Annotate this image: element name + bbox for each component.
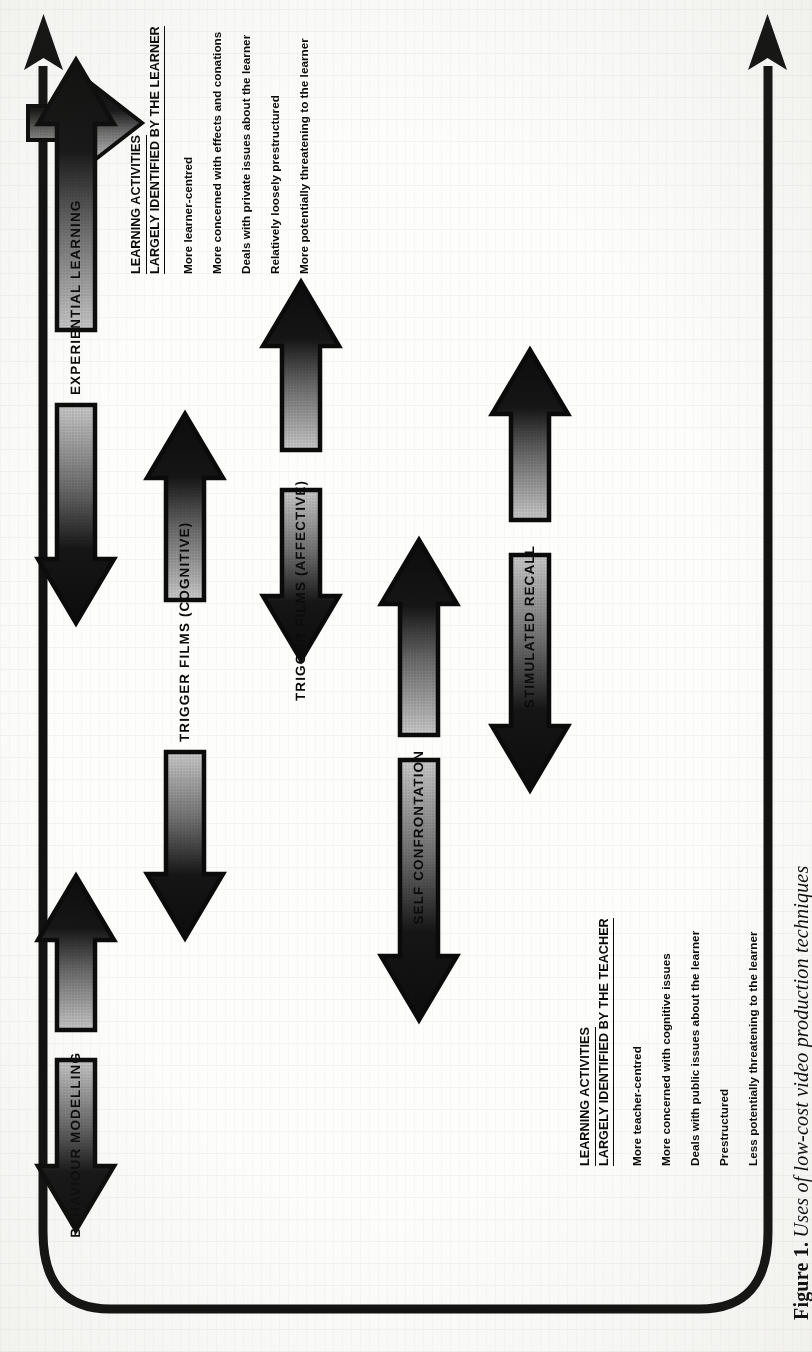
list-item: More potentially threatening to the lear… bbox=[297, 26, 310, 274]
figure-caption: Figure 1. Uses of low-cost video product… bbox=[790, 866, 812, 1320]
learner-heading-line2: LARGELY IDENTIFIED BY THE LEARNER bbox=[147, 26, 166, 274]
arrow-experiential-learning-down bbox=[38, 405, 114, 623]
arrow-label-self-confrontation: SELF CONFRONTATION bbox=[412, 750, 426, 925]
arrow-label-trigger-films-cognitive: TRIGGER FILMS (COGNITIVE) bbox=[178, 522, 192, 742]
teacher-heading-line2: LARGELY IDENTIFIED BY THE TEACHER bbox=[596, 918, 615, 1166]
learner-heading-line1: LEARNING ACTIVITIES bbox=[128, 135, 147, 274]
teacher-block-heading: LEARNING ACTIVITIES LARGELY IDENTIFIED B… bbox=[577, 918, 614, 1166]
teacher-attribute-list: More teacher-centred More concerned with… bbox=[630, 918, 759, 1166]
teacher-heading-line1: LEARNING ACTIVITIES bbox=[577, 1027, 596, 1166]
teacher-activities-block: LEARNING ACTIVITIES LARGELY IDENTIFIED B… bbox=[577, 918, 759, 1166]
list-item: More concerned with effects and conation… bbox=[210, 26, 223, 274]
arrow-self-confrontation-up bbox=[381, 540, 457, 735]
learner-attribute-list: More learner-centred More concerned with… bbox=[181, 26, 310, 274]
arrow-label-trigger-films-affective: TRIGGER FILMS (AFFECTIVE) bbox=[294, 480, 308, 701]
list-item: More concerned with cognitive issues bbox=[659, 918, 672, 1166]
list-item: Deals with private issues about the lear… bbox=[239, 26, 252, 274]
arrow-label-stimulated-recall: STIMULATED RECALL bbox=[523, 545, 537, 708]
figure-number: Figure 1. bbox=[790, 1242, 812, 1320]
arrow-label-experiential-learning: EXPERIENTIAL LEARNING bbox=[69, 200, 83, 395]
list-item: Deals with public issues about the learn… bbox=[688, 918, 701, 1166]
list-item: Relatively loosely prestructured bbox=[268, 26, 281, 274]
figure-canvas: EXPERIENTIAL LEARNING BEHAVIOUR MODELLIN… bbox=[0, 0, 812, 1352]
list-item: Less potentially threatening to the lear… bbox=[746, 918, 759, 1166]
list-item: More learner-centred bbox=[181, 26, 194, 274]
arrow-label-behaviour-modelling: BEHAVIOUR MODELLING bbox=[69, 1052, 83, 1238]
list-item: Prestructured bbox=[717, 918, 730, 1166]
list-item: More teacher-centred bbox=[630, 918, 643, 1166]
arrow-stimulated-recall-up bbox=[492, 350, 568, 520]
scanned-figure-page: EXPERIENTIAL LEARNING BEHAVIOUR MODELLIN… bbox=[0, 0, 812, 1352]
arrow-behaviour-modelling-up bbox=[38, 876, 114, 1030]
figure-caption-text: Uses of low-cost video production techni… bbox=[790, 866, 812, 1238]
learner-block-heading: LEARNING ACTIVITIES LARGELY IDENTIFIED B… bbox=[128, 26, 165, 274]
learner-activities-block: LEARNING ACTIVITIES LARGELY IDENTIFIED B… bbox=[128, 26, 310, 274]
arrow-trigger-films-cognitive-down bbox=[147, 752, 223, 938]
arrow-trigger-films-affective-up bbox=[263, 282, 339, 450]
